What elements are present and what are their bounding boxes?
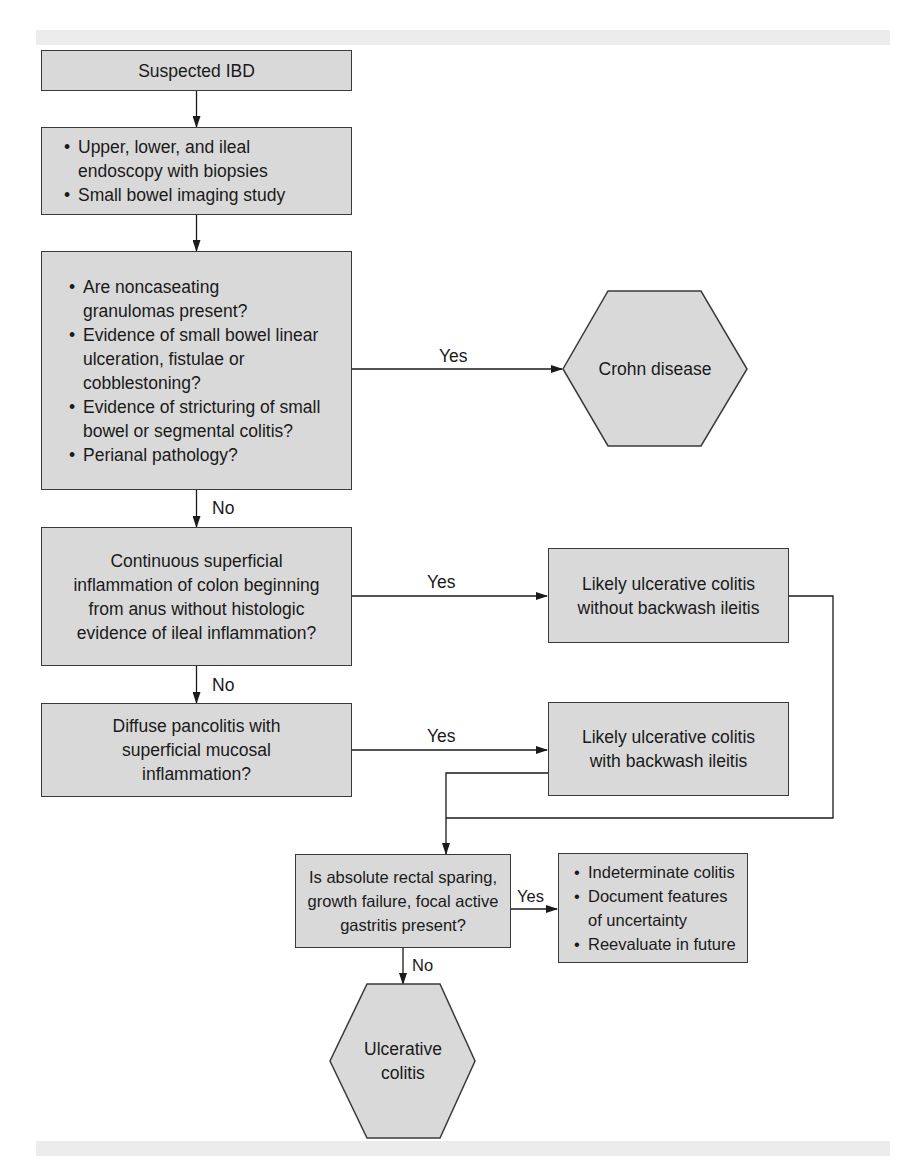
edge-label-continuous-no: No (212, 675, 234, 695)
node-diffuse-pancolitis: Diffuse pancolitis with superficial muco… (41, 703, 352, 797)
node-uc-without-backwash: Likely ulcerative colitis without backwa… (548, 548, 789, 643)
ulcerative-colitis-label: Ulcerative colitis (360, 984, 446, 1138)
workup-item: Small bowel imaging study (64, 183, 338, 207)
node-indeterminate: Indeterminate colitis Document features … (558, 853, 748, 963)
crohn-disease-label: Crohn disease (563, 291, 747, 446)
edge-label-pancolitis-yes: Yes (427, 726, 456, 746)
criteria-item: Evidence of stricturing of small bowel o… (69, 395, 345, 443)
node-crohn-criteria: Are noncaseating granulomas present? Evi… (41, 251, 352, 490)
node-suspected-ibd: Suspected IBD (41, 50, 352, 91)
edge-label-crohn-no: No (212, 498, 234, 518)
crohn-criteria-list: Are noncaseating granulomas present? Evi… (69, 275, 341, 467)
node-continuous-inflammation: Continuous superficial inflammation of c… (41, 527, 352, 666)
node-workup: Upper, lower, and ileal endoscopy with b… (41, 127, 352, 215)
indeterminate-item: Indeterminate colitis (574, 860, 738, 884)
edge-label-atypical-no: No (412, 955, 433, 975)
edge-label-crohn-yes: Yes (439, 346, 468, 366)
criteria-item: Evidence of small bowel linear ulceratio… (69, 323, 333, 395)
edge-label-continuous-yes: Yes (427, 572, 456, 592)
indeterminate-list: Indeterminate colitis Document features … (574, 860, 738, 956)
node-atypical-features: Is absolute rectal sparing, growth failu… (295, 854, 511, 948)
indeterminate-item: Document features of uncertainty (574, 884, 738, 932)
criteria-item: Perianal pathology? (69, 443, 341, 467)
node-suspected-ibd-text: Suspected IBD (138, 59, 255, 83)
indeterminate-item: Reevaluate in future (574, 932, 738, 956)
workup-item: Upper, lower, and ileal endoscopy with b… (64, 135, 338, 183)
edge-ucwith-merge (446, 773, 548, 818)
edge-label-atypical-yes: Yes (517, 886, 544, 906)
workup-list: Upper, lower, and ileal endoscopy with b… (64, 135, 338, 207)
node-uc-with-backwash: Likely ulcerative colitis with backwash … (548, 702, 789, 796)
criteria-item: Are noncaseating granulomas present? (69, 275, 303, 323)
